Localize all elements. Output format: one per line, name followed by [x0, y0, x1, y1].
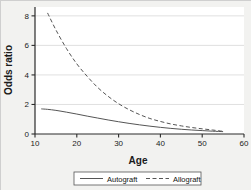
x-axis-label: Age	[129, 155, 148, 166]
x-tick-label-40: 40	[156, 139, 165, 148]
x-tick-label-60: 60	[240, 139, 249, 148]
legend-label-autograft: Autograft	[107, 175, 138, 184]
x-tick-label-20: 20	[72, 139, 81, 148]
odds-ratio-line-chart: 02468 102030405060 Age Odds ratio Autogr…	[1, 1, 251, 190]
chart-legend: Autograft Allograft	[74, 172, 201, 185]
x-tick-label-50: 50	[198, 139, 207, 148]
y-tick-label-0: 0	[25, 130, 30, 139]
x-tick-label-30: 30	[114, 139, 123, 148]
x-tick-label-10: 10	[31, 139, 40, 148]
legend-label-allograft: Allograft	[173, 175, 201, 184]
y-axis-label: Odds ratio	[3, 45, 14, 95]
figure-container: 02468 102030405060 Age Odds ratio Autogr…	[0, 0, 251, 190]
y-tick-label-6: 6	[25, 41, 30, 50]
plot-background	[35, 7, 244, 134]
y-tick-label-2: 2	[25, 100, 30, 109]
y-tick-label-8: 8	[25, 12, 30, 21]
y-tick-label-4: 4	[25, 71, 30, 80]
